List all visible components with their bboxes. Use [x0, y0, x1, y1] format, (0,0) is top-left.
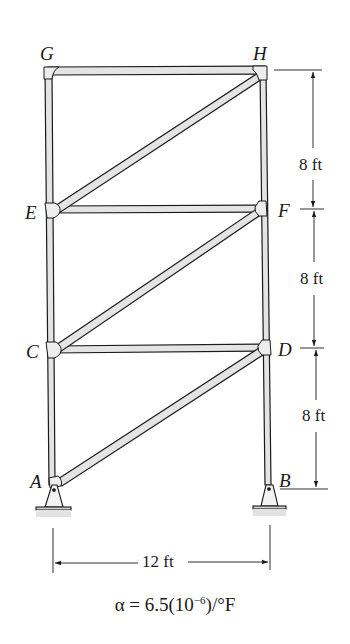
- gusset-C: [46, 342, 61, 358]
- member-EH: [55, 73, 262, 213]
- thermal-coefficient-formula: α = 6.5(10−6)/°F: [0, 594, 350, 616]
- joint-label-A: A: [30, 472, 42, 491]
- member-CD: [51, 344, 266, 353]
- joint-label-G: G: [40, 44, 54, 63]
- joint-label-F: F: [278, 201, 290, 220]
- members: [45, 66, 271, 486]
- dimension-label-middle: 8 ft: [298, 270, 325, 287]
- joint-label-B: B: [279, 471, 291, 490]
- dimension-label-upper: 8 ft: [297, 156, 324, 173]
- member-BH: [260, 70, 271, 485]
- joint-label-E: E: [25, 203, 37, 222]
- member-EF: [50, 205, 262, 213]
- dimension-label-lower: 8 ft: [300, 407, 327, 424]
- formula-prefix: α = 6.5(10: [115, 594, 194, 615]
- formula-exponent: −6: [194, 594, 206, 606]
- member-AD: [58, 346, 266, 486]
- gusset-E: [45, 203, 60, 218]
- gusset-F: [255, 201, 267, 216]
- member-AG: [45, 70, 55, 485]
- joint-label-D: D: [278, 340, 292, 359]
- joint-label-C: C: [26, 342, 39, 361]
- truss-drawing: [0, 0, 350, 644]
- joint-label-H: H: [253, 44, 267, 63]
- dimension-label-width: 12 ft: [140, 553, 176, 570]
- gusset-D: [258, 340, 271, 355]
- member-CF: [56, 208, 262, 352]
- formula-suffix: )/°F: [206, 594, 236, 615]
- member-GH: [48, 66, 265, 75]
